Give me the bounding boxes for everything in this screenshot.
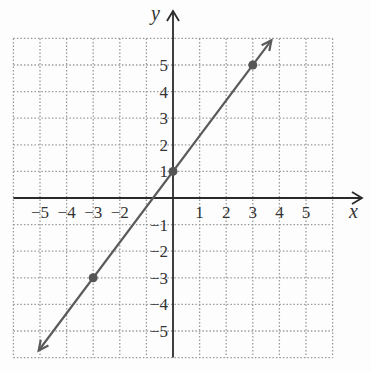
y-tick-label: 4 [160,83,169,102]
coordinate-plane: −5−4−3−21234554321−1−2−3−4−5 x y [0,0,371,372]
data-point [169,167,178,176]
x-tick-label: −2 [111,203,129,222]
x-tick-label: 4 [275,203,284,222]
x-axis-label: x [348,200,358,222]
y-tick-label: −2 [150,242,168,261]
y-tick-label: −3 [150,269,168,288]
y-axis-label: y [149,2,160,25]
x-tick-label: 3 [249,203,258,222]
y-tick-label: −1 [150,216,168,235]
x-tick-label: −5 [31,203,49,222]
axes [13,11,362,358]
x-tick-label: 5 [302,203,311,222]
y-tick-label: 3 [160,109,169,128]
data-point [248,61,257,70]
y-tick-label: 5 [160,56,169,75]
x-tick-label: 2 [222,203,231,222]
y-tick-label: −4 [150,295,169,314]
x-tick-label: 1 [195,203,204,222]
data-point [89,273,98,282]
x-tick-label: −3 [84,203,102,222]
x-tick-label: −4 [58,203,77,222]
y-tick-label: −5 [150,322,168,341]
y-tick-label: 2 [160,136,169,155]
